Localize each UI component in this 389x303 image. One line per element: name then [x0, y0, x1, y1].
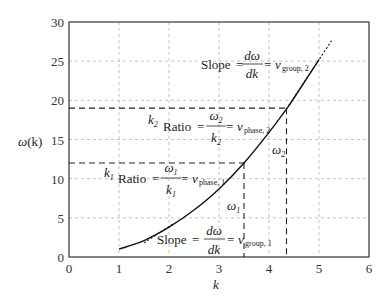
y-tick-label: 20	[51, 93, 64, 108]
y-tick-label: 15	[51, 133, 64, 148]
svg-text:v: v	[192, 171, 198, 186]
svg-text:=: =	[264, 57, 271, 72]
tangent-line	[287, 41, 332, 109]
svg-text:v: v	[237, 119, 243, 134]
x-tick-label: 4	[266, 261, 273, 276]
x-tick-label: 0	[66, 261, 73, 276]
svg-text:=: =	[197, 119, 204, 134]
svg-text:k1: k1	[166, 182, 176, 199]
svg-text:=: =	[152, 171, 159, 186]
svg-text:v: v	[238, 232, 244, 247]
y-tick-label: 0	[58, 250, 65, 265]
annotation-slope-group-2: Slope = dω dk = v group, 2	[201, 48, 309, 81]
x-tick-label: 5	[316, 261, 323, 276]
svg-text:Ratio: Ratio	[118, 171, 146, 186]
svg-text:Slope: Slope	[157, 232, 187, 247]
svg-text:=: =	[181, 171, 188, 186]
svg-text:dω: dω	[206, 223, 222, 238]
omega-2-label: ω2	[272, 142, 285, 159]
x-tick-label: 6	[366, 261, 373, 276]
svg-text:k2: k2	[148, 112, 158, 129]
y-tick-label: 10	[51, 172, 64, 187]
dispersion-chart: 0123456051015202530 k ω(k) Slope = dω dk…	[0, 0, 389, 303]
y-tick-label: 25	[51, 54, 64, 69]
svg-text:ω1: ω1	[164, 160, 177, 177]
svg-text:dk: dk	[246, 66, 259, 81]
svg-text:dk: dk	[208, 242, 221, 257]
annotation-ratio-phase-1: k1 Ratio = ω1 k1 = v phase, 1	[104, 160, 225, 199]
y-tick-label: 5	[58, 211, 65, 226]
svg-text:group, 1: group, 1	[245, 239, 272, 248]
svg-text:phase, 2: phase, 2	[244, 126, 270, 135]
x-tick-label: 3	[216, 261, 223, 276]
x-tick-label: 2	[166, 261, 173, 276]
svg-text:=: =	[192, 232, 199, 247]
svg-text:=: =	[226, 119, 233, 134]
svg-text:v: v	[275, 57, 281, 72]
svg-text:k2: k2	[211, 130, 221, 147]
svg-text:=: =	[236, 57, 243, 72]
svg-text:phase, 1: phase, 1	[199, 178, 225, 187]
x-tick-label: 1	[116, 261, 123, 276]
svg-text:=: =	[227, 232, 234, 247]
svg-text:dω: dω	[244, 48, 260, 63]
y-axis-label: ω(k)	[18, 134, 42, 149]
omega-1-label: ω1	[227, 198, 240, 215]
svg-text:group, 2: group, 2	[282, 64, 309, 73]
annotation-ratio-phase-2: k2 Ratio = ω2 k2 = v phase, 2	[148, 108, 270, 147]
y-tick-label: 30	[51, 15, 64, 30]
annotation-slope-group-1: Slope = dω dk = v group, 1	[157, 223, 272, 257]
x-axis-label: k	[213, 277, 219, 292]
svg-text:ω2: ω2	[209, 108, 222, 125]
svg-text:k1: k1	[104, 165, 114, 182]
svg-text:Ratio: Ratio	[163, 119, 191, 134]
svg-text:Slope: Slope	[201, 57, 231, 72]
